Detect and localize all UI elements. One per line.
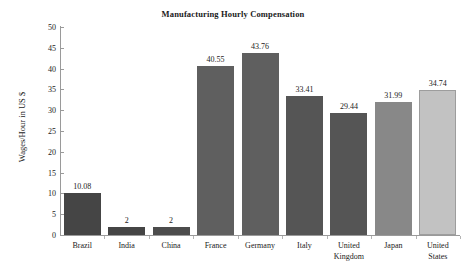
bar[interactable] [64,193,101,235]
x-tick-mark [460,236,461,239]
bar-value-label: 40.55 [207,55,225,64]
y-tick-mark [61,131,64,132]
y-tick-mark [61,48,64,49]
y-tick-mark [61,69,64,70]
x-axis-category-label: India [118,241,134,252]
x-axis-category-label: Italy [297,241,312,252]
bar-value-label: 10.08 [73,182,91,191]
x-axis-category-label: Brazil [72,241,92,252]
x-tick-mark [149,236,150,239]
x-axis-category-label: United Kingdom [334,241,364,262]
bar[interactable] [419,90,456,235]
bar-value-label: 29.44 [340,102,358,111]
chart-title: Manufacturing Hourly Compensation [0,9,466,19]
y-tick-label: 35 [0,85,56,94]
bar-chart: Manufacturing Hourly Compensation Wages/… [0,0,466,277]
y-tick-mark [61,235,64,236]
x-tick-mark [238,236,239,239]
x-axis-category-label: Japan [384,241,402,252]
x-axis-category-label: China [162,241,181,252]
x-axis-line [60,235,460,236]
y-tick-label: 50 [0,23,56,32]
y-tick-label: 40 [0,64,56,73]
x-tick-mark [327,236,328,239]
bar-value-label: 2 [125,216,129,225]
y-tick-label: 5 [0,210,56,219]
x-axis-category-label: United States [427,241,449,262]
x-axis-category-label: France [205,241,227,252]
x-tick-mark [282,236,283,239]
bar-value-label: 43.76 [251,42,269,51]
x-tick-mark [193,236,194,239]
y-tick-label: 10 [0,189,56,198]
y-tick-label: 0 [0,231,56,240]
bar[interactable] [286,96,323,235]
y-tick-label: 30 [0,106,56,115]
bar-value-label: 33.41 [295,85,313,94]
bar-value-label: 2 [169,216,173,225]
y-tick-mark [61,27,64,28]
bar-value-label: 34.74 [429,79,447,88]
bar[interactable] [197,66,234,235]
y-tick-label: 15 [0,168,56,177]
x-tick-mark [104,236,105,239]
y-tick-label: 20 [0,147,56,156]
bar[interactable] [242,53,279,235]
y-tick-mark [61,173,64,174]
x-tick-mark [416,236,417,239]
x-tick-mark [371,236,372,239]
bar[interactable] [153,227,190,235]
y-tick-label: 45 [0,43,56,52]
y-tick-mark [61,110,64,111]
y-tick-mark [61,152,64,153]
bar[interactable] [108,227,145,235]
bar[interactable] [330,113,367,235]
y-tick-label: 25 [0,127,56,136]
x-axis-category-label: Germany [245,241,275,252]
y-tick-mark [61,89,64,90]
bar-value-label: 31.99 [384,91,402,100]
bar[interactable] [375,102,412,235]
